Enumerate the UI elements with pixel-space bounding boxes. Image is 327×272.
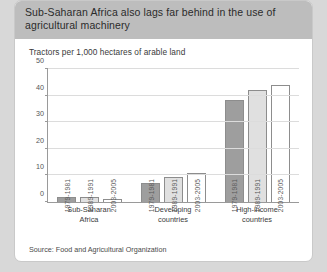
y-axis-tick-mark — [45, 121, 48, 122]
category-label-line: countries — [131, 215, 215, 225]
y-axis-tick-mark — [45, 174, 48, 175]
gridline — [48, 148, 299, 149]
category-label-line: Developing — [131, 205, 215, 215]
category-label-line: countries — [215, 215, 299, 225]
bar-column: 1989-1991 — [248, 69, 267, 202]
category-label: High-incomecountries — [215, 203, 299, 225]
bar-column: 2003-2005 — [187, 69, 206, 202]
chart-source: Source: Food and Agricultural Organizati… — [29, 245, 166, 254]
y-axis-tick-label: 20 — [36, 135, 44, 144]
y-axis-tick-mark — [45, 68, 48, 69]
chart-card: Sub-Saharan Africa also lags far behind … — [14, 0, 313, 262]
plot-area: 1979-19811989-19912003-20051979-19811989… — [47, 69, 299, 203]
bar-group: 1979-19811989-19912003-2005 — [132, 69, 216, 202]
bar-column: 1979-1981 — [57, 69, 76, 202]
gridline — [48, 95, 299, 96]
bar-column: 2003-2005 — [271, 69, 290, 202]
bar-column: 1989-1991 — [164, 69, 183, 202]
gridline — [48, 68, 299, 69]
bar-group: 1979-19811989-19912003-2005 — [48, 69, 132, 202]
category-label: Sub-SaharanAfrica — [47, 203, 131, 225]
category-axis-labels: Sub-SaharanAfricaDevelopingcountriesHigh… — [47, 203, 299, 225]
y-axis-tick-mark — [45, 95, 48, 96]
page-background: Sub-Saharan Africa also lags far behind … — [0, 0, 327, 272]
bar-column: 1989-1991 — [80, 69, 99, 202]
bar-column: 2003-2005 — [103, 69, 122, 202]
y-axis-tick-mark — [45, 201, 48, 202]
category-label-line: Sub-Saharan — [47, 205, 131, 215]
y-axis-tick-label: 0 — [40, 189, 44, 198]
category-label: Developingcountries — [131, 203, 215, 225]
bar-column: 1979-1981 — [225, 69, 244, 202]
y-axis-tick-label: 50 — [36, 56, 44, 65]
bar-column: 1979-1981 — [141, 69, 160, 202]
y-axis-tick-label: 40 — [36, 82, 44, 91]
card-header: Sub-Saharan Africa also lags far behind … — [15, 1, 312, 39]
page-title: Sub-Saharan Africa also lags far behind … — [25, 6, 302, 32]
bar-group: 1979-19811989-19912003-2005 — [215, 69, 299, 202]
y-axis-tick-mark — [45, 148, 48, 149]
y-axis-tick-label: 10 — [36, 162, 44, 171]
bar-chart: 1979-19811989-19912003-20051979-19811989… — [25, 65, 305, 225]
chart-subtitle: Tractors per 1,000 hectares of arable la… — [29, 47, 185, 57]
gridline — [48, 121, 299, 122]
gridline — [48, 174, 299, 175]
bar-groups: 1979-19811989-19912003-20051979-19811989… — [48, 69, 299, 202]
card-body: Tractors per 1,000 hectares of arable la… — [15, 39, 312, 262]
category-label-line: High-income — [215, 205, 299, 215]
y-axis-tick-label: 30 — [36, 109, 44, 118]
category-label-line: Africa — [47, 215, 131, 225]
